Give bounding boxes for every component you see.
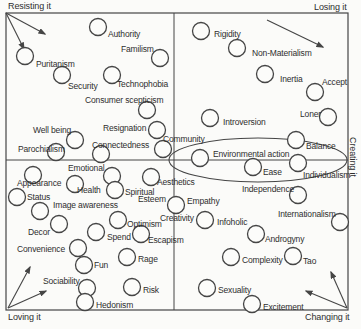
label-hedonism: Hedonism xyxy=(96,300,133,310)
bubble xyxy=(70,240,87,257)
label-escapism: Escapism xyxy=(148,235,184,245)
bubble xyxy=(107,182,124,199)
direction-arrow xyxy=(267,20,323,47)
bubble xyxy=(124,279,141,296)
label-parochialism: Parochialism xyxy=(18,144,65,154)
label-internationalism: Internationalism xyxy=(278,209,336,219)
label-health: Health xyxy=(77,185,101,195)
bubble xyxy=(17,48,34,65)
bubble xyxy=(223,249,240,266)
label-decor: Decor xyxy=(28,227,50,237)
bubble xyxy=(90,19,107,36)
label-appearance: Appearance xyxy=(17,178,61,188)
bubble xyxy=(257,66,274,83)
label-consumer-scepticism: Consumer scepticism xyxy=(85,95,163,105)
label-inertia: Inertia xyxy=(280,74,303,84)
label-familism: Familism xyxy=(121,44,154,54)
bubble xyxy=(110,212,127,229)
label-creativity: Creativity xyxy=(160,213,194,223)
label-rigidity: Rigidity xyxy=(214,29,241,39)
bubble xyxy=(77,294,94,311)
bubble xyxy=(76,257,93,274)
perceptual-map: AuthorityFamilismPuritanismSecurityTechn… xyxy=(0,0,361,329)
label-emotional: Emotional xyxy=(68,163,104,173)
label-fun: Fun xyxy=(94,260,108,270)
label-excitement: Excitement xyxy=(263,302,304,312)
bubble xyxy=(199,280,216,297)
label-well-being: Well being xyxy=(33,125,71,135)
label-community: Community xyxy=(163,134,205,144)
label-infoholic: Infoholic xyxy=(217,217,247,227)
direction-arrow xyxy=(8,267,30,308)
label-risk: Risk xyxy=(143,285,159,295)
label-image-awareness: Image awareness xyxy=(53,200,118,210)
bubble xyxy=(88,224,105,241)
label-esteem: Esteem xyxy=(138,194,166,204)
bubble xyxy=(202,110,219,127)
bubble xyxy=(320,109,337,126)
corner-label-loving-it: Loving it xyxy=(8,312,41,322)
label-rage: Rage xyxy=(138,254,158,264)
label-status: Status xyxy=(27,192,50,202)
direction-arrow xyxy=(8,291,46,308)
bubble xyxy=(9,189,26,206)
bubble xyxy=(193,23,210,40)
bubble xyxy=(229,40,246,57)
label-introversion: Introversion xyxy=(223,117,266,127)
bubble xyxy=(152,50,169,67)
label-convenience: Convenience xyxy=(17,244,65,254)
bubble xyxy=(245,159,262,176)
label-empathy: Empathy xyxy=(187,196,220,206)
label-ease: Ease xyxy=(263,167,282,177)
label-aesthetics: Aesthetics xyxy=(157,177,195,187)
label-tao: Tao xyxy=(303,256,316,266)
bubble xyxy=(285,248,302,265)
bubble xyxy=(288,132,305,149)
label-androgyny: Androgyny xyxy=(265,234,304,244)
label-spend: Spend xyxy=(107,232,131,242)
label-connectedness: Connectedness xyxy=(92,140,149,150)
label-balance: Balance xyxy=(306,141,336,151)
label-environmental-action: Environmental action xyxy=(213,149,289,159)
label-resignation: Resignation xyxy=(103,123,146,133)
label-puritanism: Puritanism xyxy=(36,59,75,69)
label-technophobia: Technophobia xyxy=(117,79,168,89)
corner-label-resisting-it: Resisting it xyxy=(8,1,51,11)
label-loner: Loner xyxy=(300,109,321,119)
bubble xyxy=(248,226,265,243)
bubble xyxy=(290,155,307,172)
label-complexity: Complexity xyxy=(242,255,283,265)
bubble xyxy=(307,84,324,101)
corner-label-changing-it: Changing it xyxy=(305,312,349,322)
label-optimism: Optimism xyxy=(127,219,162,229)
label-sociability: Sociability xyxy=(43,276,80,286)
bubble xyxy=(51,216,68,233)
corner-label-losing-it: Losing it xyxy=(314,2,347,12)
label-sexuality: Sexuality xyxy=(218,285,251,295)
label-security: Security xyxy=(68,81,98,91)
corner-label-creating-it: Creating it xyxy=(348,137,358,177)
label-non-materialism: Non-Materialism xyxy=(252,48,312,58)
bubble xyxy=(168,197,185,214)
label-individualism: Individualism xyxy=(303,170,350,180)
label-independence: Independence xyxy=(242,184,294,194)
bubble xyxy=(244,296,261,313)
bubble xyxy=(119,249,136,266)
label-authority: Authority xyxy=(108,29,140,39)
bubble xyxy=(197,212,214,229)
bubble xyxy=(32,203,49,220)
bubble xyxy=(192,150,209,167)
label-accept: Accept xyxy=(322,77,347,87)
